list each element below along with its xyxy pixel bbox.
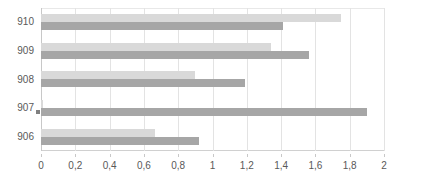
x-axis-tick bbox=[178, 154, 179, 157]
bar-group bbox=[41, 37, 384, 66]
x-axis-tick bbox=[281, 154, 282, 157]
y-axis-label: 906 bbox=[0, 131, 34, 142]
bar bbox=[41, 100, 43, 108]
bar bbox=[41, 51, 309, 59]
y-axis: 910909908907906 bbox=[0, 8, 34, 151]
y-axis-label: 908 bbox=[0, 74, 34, 85]
x-axis-tick bbox=[41, 154, 42, 157]
bar bbox=[41, 22, 283, 30]
bar bbox=[41, 137, 199, 145]
x-axis: 00,20,40,60,811,21,41,61,82 bbox=[0, 154, 427, 172]
x-axis-tick bbox=[75, 154, 76, 157]
x-axis-tick bbox=[213, 154, 214, 157]
bar-group bbox=[41, 8, 384, 37]
x-axis-tick bbox=[110, 154, 111, 157]
bar bbox=[41, 129, 155, 137]
bar-group bbox=[41, 122, 384, 151]
x-axis-tick bbox=[144, 154, 145, 157]
x-axis-tick bbox=[384, 154, 385, 157]
bar-chart: 910909908907906 00,20,40,60,811,21,41,61… bbox=[0, 0, 427, 179]
bar bbox=[41, 14, 341, 22]
bar-group bbox=[41, 65, 384, 94]
y-axis-label: 907 bbox=[0, 102, 34, 113]
bar bbox=[41, 71, 195, 79]
x-axis-tick bbox=[247, 154, 248, 157]
bar-group bbox=[41, 94, 384, 123]
plot-area bbox=[41, 8, 384, 151]
bar bbox=[41, 108, 367, 116]
gridline bbox=[384, 8, 385, 151]
x-axis-tick bbox=[315, 154, 316, 157]
y-axis-label: 909 bbox=[0, 45, 34, 56]
bar bbox=[41, 43, 271, 51]
y-axis-label: 910 bbox=[0, 16, 34, 27]
x-axis-label: 2 bbox=[364, 159, 404, 173]
x-axis-tick bbox=[350, 154, 351, 157]
bar bbox=[41, 79, 245, 87]
row-marker bbox=[36, 110, 40, 114]
